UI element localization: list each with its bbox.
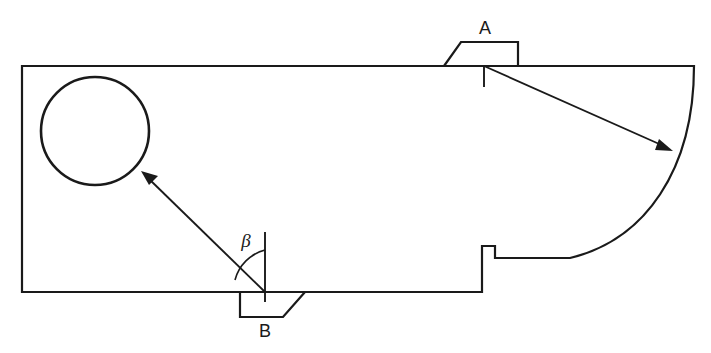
leader-line-a [484, 66, 666, 147]
boss-a-shape [444, 42, 518, 66]
body-outline [22, 66, 694, 292]
label-point-a: A [479, 18, 491, 38]
bore-circle [41, 77, 149, 185]
leader-b-arrowhead [141, 171, 158, 185]
leader-a-arrowhead [655, 139, 673, 151]
diagram-svg: Sectional machine element outline with a… [0, 0, 711, 353]
boss-b-shape [240, 292, 305, 317]
technical-diagram-canvas: Sectional machine element outline with a… [0, 0, 711, 353]
label-angle-beta: β [240, 230, 251, 251]
beta-angle-arc [235, 250, 265, 280]
label-point-b: B [259, 321, 271, 341]
